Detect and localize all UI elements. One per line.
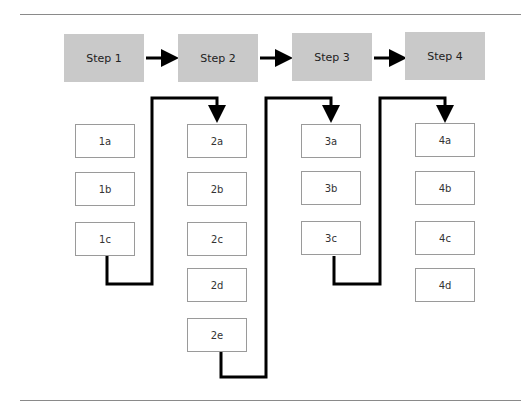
substep-4c: 4c	[415, 221, 475, 255]
substep-3b: 3b	[301, 171, 361, 205]
substep-label: 1c	[99, 234, 111, 245]
substep-label: 2c	[211, 234, 223, 245]
step-2-label: Step 2	[200, 52, 236, 65]
substep-2b: 2b	[187, 172, 247, 206]
step-2-box: Step 2	[178, 34, 258, 82]
step-4-box: Step 4	[405, 32, 485, 80]
substep-3c: 3c	[301, 221, 361, 255]
substep-label: 2b	[211, 184, 224, 195]
substep-label: 4b	[439, 183, 452, 194]
step-1-box: Step 1	[64, 34, 144, 82]
substep-2d: 2d	[187, 268, 247, 302]
substep-label: 4c	[439, 233, 451, 244]
substep-4b: 4b	[415, 171, 475, 205]
substep-label: 1b	[99, 184, 112, 195]
substep-1b: 1b	[75, 172, 135, 206]
substep-1c: 1c	[75, 222, 135, 256]
substep-4a: 4a	[415, 123, 475, 157]
substep-label: 2a	[211, 136, 224, 147]
step-3-label: Step 3	[314, 51, 350, 64]
substep-2a: 2a	[187, 124, 247, 158]
substep-label: 4a	[439, 135, 452, 146]
substep-2e: 2e	[187, 318, 247, 352]
substep-label: 3b	[325, 183, 338, 194]
step-4-label: Step 4	[427, 50, 463, 63]
substep-label: 4d	[439, 280, 452, 291]
substep-label: 2d	[211, 280, 224, 291]
step-3-box: Step 3	[292, 33, 372, 81]
substep-1a: 1a	[75, 124, 135, 158]
step-1-label: Step 1	[86, 52, 122, 65]
substep-2c: 2c	[187, 222, 247, 256]
substep-label: 3a	[325, 136, 338, 147]
substep-4d: 4d	[415, 268, 475, 302]
substep-label: 2e	[211, 330, 224, 341]
substep-label: 1a	[99, 136, 112, 147]
substep-label: 3c	[325, 233, 337, 244]
substep-3a: 3a	[301, 124, 361, 158]
